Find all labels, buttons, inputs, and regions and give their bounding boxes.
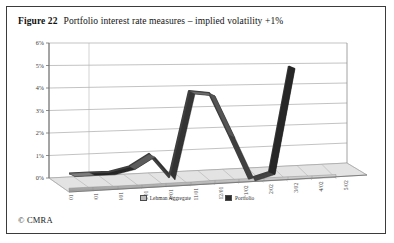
figure-caption-text: Portfolio interest rate measures – impli…: [64, 16, 284, 26]
copyright-credit: © CMRA: [18, 215, 53, 225]
y-tick-3: 3%: [36, 107, 44, 114]
x-tick-8: 2/02: [268, 184, 274, 194]
x-tick-11: 5/02: [343, 180, 349, 190]
legend-label-portfolio: Portfolio: [235, 195, 254, 201]
x-tick-7: 1/02: [243, 185, 249, 195]
chart-svg: 0% 1% 2% 3% 4% 5% 6% 6/01 7/01 8/01 9/01…: [15, 35, 379, 200]
y-tick-6: 6%: [36, 39, 44, 46]
y-tick-0: 0%: [36, 174, 44, 181]
chart-plot-area: 0% 1% 2% 3% 4% 5% 6% 6/01 7/01 8/01 9/01…: [15, 35, 379, 200]
figure-frame: Figure 22Portfolio interest rate measure…: [6, 6, 386, 234]
x-tick-10: 4/02: [318, 181, 324, 191]
legend-swatch-portfolio: [225, 195, 232, 201]
y-tick-2: 2%: [36, 129, 44, 136]
y-tick-1: 1%: [36, 152, 44, 159]
legend-swatch-lehman-aggregate: [140, 195, 147, 201]
x-tick-9: 3/02: [293, 183, 299, 193]
legend-label-lehman-aggregate: Lehman Aggregate: [150, 195, 191, 201]
legend-item-portfolio: Portfolio: [225, 195, 254, 201]
chart-gridlines: [49, 43, 347, 178]
y-tick-5: 5%: [36, 62, 44, 69]
figure-number: Figure 22: [18, 16, 58, 26]
legend-item-lehman-aggregate: Lehman Aggregate: [140, 195, 191, 201]
y-tick-4: 4%: [36, 84, 44, 91]
figure-caption: Figure 22Portfolio interest rate measure…: [18, 16, 283, 26]
y-axis: 0% 1% 2% 3% 4% 5% 6%: [36, 39, 49, 181]
chart-legend: Lehman Aggregate Portfolio: [7, 195, 387, 201]
